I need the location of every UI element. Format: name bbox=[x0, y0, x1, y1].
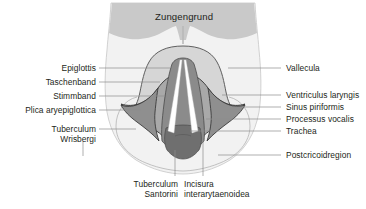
label-stimmband: Stimmband bbox=[0, 91, 96, 102]
label-sinus-piriformis: Sinus piriformis bbox=[286, 102, 344, 113]
figure-root: Zungengrund Epiglottis Taschenband Stimm… bbox=[0, 0, 366, 209]
label-incisura-line1: Incisura bbox=[184, 179, 214, 190]
label-vallecula: Vallecula bbox=[286, 63, 320, 74]
label-tuberculum-wrisbergi-line2: Wrisbergi bbox=[0, 134, 96, 145]
label-plica-aryepiglottica: Plica aryepiglottica bbox=[0, 105, 96, 116]
label-trachea: Trachea bbox=[286, 126, 317, 137]
label-epiglottis: Epiglottis bbox=[0, 63, 96, 74]
figure-title: Zungengrund bbox=[155, 11, 213, 22]
label-tuberculum-santorini-line1: Tuberculum bbox=[110, 179, 178, 190]
label-incisura-line2: interarytaenoidea bbox=[184, 189, 250, 200]
label-taschenband: Taschenband bbox=[0, 77, 96, 88]
label-tuberculum-wrisbergi-line1: Tuberculum bbox=[0, 124, 96, 135]
label-postcricoidregion: Postcricoidregion bbox=[286, 150, 351, 161]
label-tuberculum-santorini-line2: Santorini bbox=[110, 189, 178, 200]
label-processus-vocalis: Processus vocalis bbox=[286, 114, 354, 125]
label-ventriculus-laryngis: Ventriculus laryngis bbox=[286, 90, 359, 101]
